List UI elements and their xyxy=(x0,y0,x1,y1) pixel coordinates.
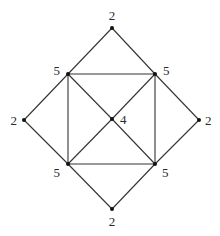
vertex-label-right: 2 xyxy=(205,113,212,128)
vertex-label-center: 4 xyxy=(120,112,127,127)
edge-right-lr xyxy=(155,120,199,164)
vertex-label-ll: 5 xyxy=(54,165,61,180)
vertex-top xyxy=(110,26,114,30)
vertex-ll xyxy=(66,162,70,166)
vertex-label-left: 2 xyxy=(11,113,18,128)
vertex-label-top: 2 xyxy=(109,8,116,23)
edge-ll-bottom xyxy=(68,164,112,209)
edge-ll-center xyxy=(68,119,112,164)
vertex-lr xyxy=(153,162,157,166)
vertex-label-ur: 5 xyxy=(163,63,170,78)
vertex-label-bottom: 2 xyxy=(109,214,116,229)
graph-canvas: 255242552 xyxy=(0,0,220,236)
edge-lr-center xyxy=(112,119,155,164)
vertex-center xyxy=(110,117,114,121)
edge-ur-right xyxy=(155,74,199,120)
vertex-right xyxy=(197,118,201,122)
edge-ul-center xyxy=(68,74,112,119)
edge-top-ur xyxy=(112,28,155,74)
edge-lr-bottom xyxy=(112,164,155,209)
vertex-label-ul: 5 xyxy=(54,63,61,78)
edge-left-ll xyxy=(24,120,68,164)
edge-ul-left xyxy=(24,74,68,120)
edge-top-ul xyxy=(68,28,112,74)
vertex-bottom xyxy=(110,207,114,211)
vertex-left xyxy=(22,118,26,122)
vertex-label-lr: 5 xyxy=(162,165,169,180)
vertex-ur xyxy=(153,72,157,76)
graph-diagram: 255242552 xyxy=(0,0,220,236)
edge-ur-center xyxy=(112,74,155,119)
vertex-ul xyxy=(66,72,70,76)
node-layer xyxy=(22,26,201,211)
